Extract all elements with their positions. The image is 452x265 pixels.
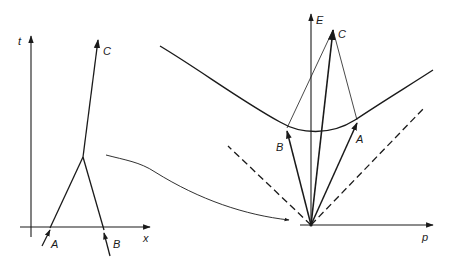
light-cone-left — [228, 146, 311, 225]
t-axis-label: t — [18, 35, 22, 47]
worldline-c — [83, 40, 98, 157]
vector-c-label: C — [338, 28, 346, 40]
mass-shell-hyperbola — [160, 46, 433, 132]
vector-b — [287, 131, 311, 225]
vector-b-label: B — [276, 141, 283, 153]
worldline-a-label: A — [50, 238, 58, 250]
light-cone-right — [311, 108, 424, 225]
c-to-a-line — [333, 30, 357, 120]
worldline-b-label: B — [113, 238, 120, 250]
vector-c — [311, 30, 333, 225]
spacetime-diagram: t x A B C — [18, 35, 150, 256]
worldline-a-lower — [42, 230, 50, 246]
p-axis-label: p — [421, 231, 428, 243]
worldline-b-lower — [104, 233, 110, 256]
vector-a — [311, 123, 357, 225]
figure-canvas: t x A B C p E B A — [0, 0, 452, 265]
x-axis-label: x — [142, 232, 149, 244]
worldline-a — [50, 157, 83, 228]
worldline-c-label: C — [103, 45, 111, 57]
c-to-b-line — [287, 30, 333, 128]
connector-arrow — [106, 155, 289, 220]
worldline-b — [83, 157, 104, 230]
momentum-diagram: p E B A C — [160, 14, 433, 243]
vector-a-label: A — [355, 133, 363, 145]
origin-point — [309, 223, 312, 226]
e-axis-label: E — [316, 14, 324, 26]
